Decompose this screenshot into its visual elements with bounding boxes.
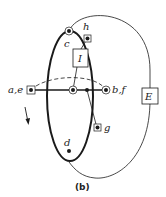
label-h: h bbox=[83, 21, 89, 32]
label-ae: a,e bbox=[8, 84, 23, 95]
vertex-g bbox=[96, 126, 100, 130]
vertex-h bbox=[86, 37, 90, 41]
vertex-mid bbox=[85, 88, 89, 92]
label-bf: b,f bbox=[112, 84, 128, 95]
vertex-center bbox=[71, 88, 75, 92]
vertex-bf bbox=[104, 88, 108, 92]
label-c: c bbox=[64, 38, 70, 49]
arrow-down-icon bbox=[25, 107, 30, 125]
vertex-ae bbox=[29, 88, 33, 92]
figure-caption: (b) bbox=[75, 182, 90, 192]
box-E-label: E bbox=[144, 91, 153, 102]
label-d: d bbox=[64, 137, 70, 148]
label-g: g bbox=[104, 122, 110, 133]
vertex-c bbox=[67, 29, 71, 33]
graph-diagram: I E c h a,e b,f g d (b) bbox=[0, 0, 166, 197]
dashed-arc bbox=[31, 78, 106, 90]
vertex-d bbox=[67, 149, 71, 153]
